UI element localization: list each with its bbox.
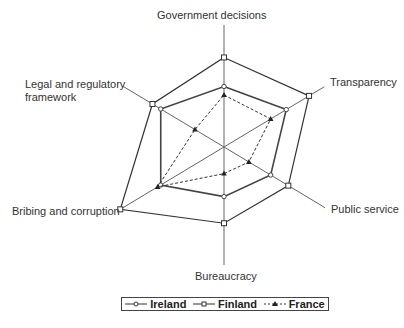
square-marker-icon	[222, 221, 227, 226]
circle-marker-icon	[284, 107, 288, 111]
axis-label-legal: Legal and regulatoryframework	[25, 78, 125, 104]
series-finland	[120, 57, 309, 223]
axis-label-transparency: Transparency	[330, 76, 397, 89]
axis-label-government: Government decisions	[157, 9, 266, 22]
square-marker-icon	[150, 101, 155, 106]
triangle-marker-icon	[221, 92, 227, 97]
circle-marker-icon	[125, 300, 147, 308]
circle-marker-icon	[159, 107, 163, 111]
legend-ireland: Ireland	[125, 298, 186, 310]
axis-label-public-service: Public service	[331, 203, 399, 216]
square-marker-icon	[286, 183, 291, 188]
legend: Ireland Finland France	[121, 297, 329, 311]
axis-label-bureaucracy: Bureaucracy	[195, 270, 257, 283]
square-marker-icon	[307, 93, 312, 98]
axis-line	[123, 86, 224, 147]
series-ireland	[161, 87, 286, 197]
legend-france: France	[264, 298, 325, 310]
circle-marker-icon	[222, 194, 226, 198]
axis-label-bribing: Bribing and corruption	[12, 205, 120, 218]
triangle-marker-icon	[246, 159, 252, 164]
triangle-marker-icon	[264, 300, 286, 308]
circle-marker-icon	[222, 84, 226, 88]
circle-marker-icon	[268, 173, 272, 177]
square-marker-icon	[193, 300, 215, 308]
square-marker-icon	[222, 55, 227, 60]
axis-line	[119, 147, 224, 210]
legend-finland: Finland	[193, 298, 257, 310]
